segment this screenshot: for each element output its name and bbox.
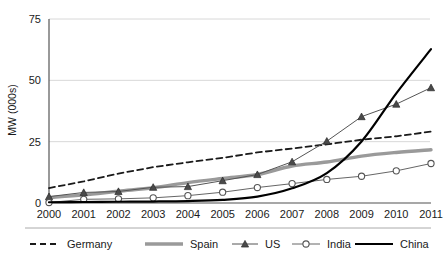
y-tick-label: 50 bbox=[29, 74, 41, 86]
x-tick-label: 2005 bbox=[210, 208, 234, 220]
y-tick-label: 75 bbox=[29, 13, 41, 25]
line-chart: 0255075 MW (000s) 2000200120022003200420… bbox=[0, 0, 443, 259]
chart-figure: 0255075 MW (000s) 2000200120022003200420… bbox=[0, 0, 443, 259]
legend-label: India bbox=[327, 238, 352, 250]
legend-label: China bbox=[400, 238, 430, 250]
data-point-marker bbox=[150, 195, 156, 201]
x-tick-label: 2007 bbox=[280, 208, 304, 220]
x-tick-label: 2003 bbox=[141, 208, 165, 220]
x-tick-label: 2001 bbox=[71, 208, 95, 220]
x-tick-label: 2006 bbox=[245, 208, 269, 220]
data-point-marker bbox=[254, 184, 260, 190]
x-tick-label: 2008 bbox=[315, 208, 339, 220]
x-tick-label: 2004 bbox=[176, 208, 200, 220]
y-axis-title: MW (000s) bbox=[6, 84, 18, 135]
data-point-marker bbox=[220, 189, 226, 195]
data-point-marker bbox=[393, 168, 399, 174]
legend-label: US bbox=[265, 238, 280, 250]
x-tick-label: 2002 bbox=[106, 208, 130, 220]
y-tick-label: 25 bbox=[29, 136, 41, 148]
chart-background bbox=[0, 0, 443, 259]
data-point-marker bbox=[324, 176, 330, 182]
x-tick-label: 2000 bbox=[37, 208, 61, 220]
data-point-marker bbox=[428, 160, 434, 166]
x-tick-label: 2010 bbox=[384, 208, 408, 220]
legend-marker bbox=[303, 241, 309, 247]
data-point-marker bbox=[289, 181, 295, 187]
x-tick-label: 2011 bbox=[419, 208, 443, 220]
legend-label: Germany bbox=[67, 238, 113, 250]
data-point-marker bbox=[358, 173, 364, 179]
x-tick-label: 2009 bbox=[349, 208, 373, 220]
legend-label: Spain bbox=[190, 238, 218, 250]
data-point-marker bbox=[185, 193, 191, 199]
